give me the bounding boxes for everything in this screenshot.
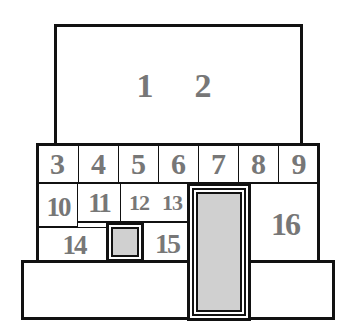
top-block (54, 24, 303, 146)
label-10: 10 (38, 190, 78, 224)
label-5: 5 (118, 146, 159, 182)
label-8: 8 (238, 146, 279, 182)
tall-door (187, 183, 251, 321)
label-1: 1 (130, 68, 160, 104)
small-window (106, 222, 144, 262)
label-13: 13 (156, 188, 188, 218)
top-row: 3 4 5 6 7 8 9 (36, 143, 320, 184)
label-11: 11 (78, 187, 120, 219)
label-16: 16 (252, 205, 318, 243)
label-4: 4 (78, 146, 119, 182)
label-2: 2 (188, 68, 218, 104)
base-block (21, 260, 335, 320)
label-12: 12 (122, 188, 156, 218)
label-9: 9 (278, 146, 320, 182)
tall-door-pane (196, 192, 242, 312)
tall-door-frame (192, 188, 246, 316)
label-14: 14 (50, 230, 98, 260)
label-15: 15 (145, 228, 189, 260)
label-7: 7 (198, 146, 239, 182)
small-window-pane (111, 227, 139, 257)
label-6: 6 (158, 146, 199, 182)
label-3: 3 (36, 146, 79, 182)
